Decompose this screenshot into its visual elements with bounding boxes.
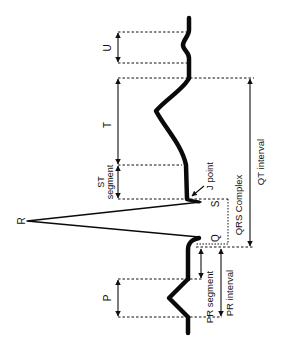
label-qrs-complex: QRS Complex	[233, 174, 244, 235]
label-r: R	[16, 217, 27, 224]
u-wave-trace	[183, 18, 189, 78]
p-wave-trace	[169, 279, 188, 333]
label-pr-segment: PR segment	[204, 271, 215, 324]
label-st-2: segment	[105, 164, 115, 199]
label-s: S	[210, 200, 221, 207]
label-qt-interval: QT interval	[255, 139, 266, 185]
t-wave-trace	[156, 78, 189, 199]
qrs-trace	[27, 199, 201, 240]
labels: U T ST segment J point R S Q QRS Complex…	[16, 44, 266, 323]
ecg-diagram: U T ST segment J point R S Q QRS Complex…	[0, 0, 283, 360]
label-u: U	[102, 44, 113, 51]
label-j-point: J point	[204, 162, 215, 190]
j-point-pointer	[192, 186, 204, 196]
label-p: P	[102, 294, 113, 301]
label-pr-interval: PR interval	[224, 270, 235, 316]
label-q: Q	[210, 234, 221, 242]
label-t: T	[102, 122, 113, 128]
